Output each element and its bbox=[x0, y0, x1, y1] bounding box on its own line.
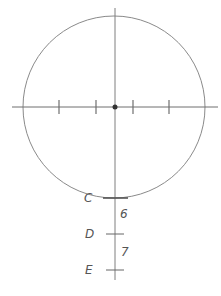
label-c: C bbox=[84, 191, 93, 205]
segment-label-6: 6 bbox=[120, 207, 128, 221]
segment-label-7: 7 bbox=[121, 245, 129, 259]
label-e: E bbox=[85, 263, 93, 277]
center-dot bbox=[113, 105, 118, 110]
label-d: D bbox=[85, 227, 94, 241]
diagram-canvas: C D E 6 7 bbox=[0, 0, 221, 296]
